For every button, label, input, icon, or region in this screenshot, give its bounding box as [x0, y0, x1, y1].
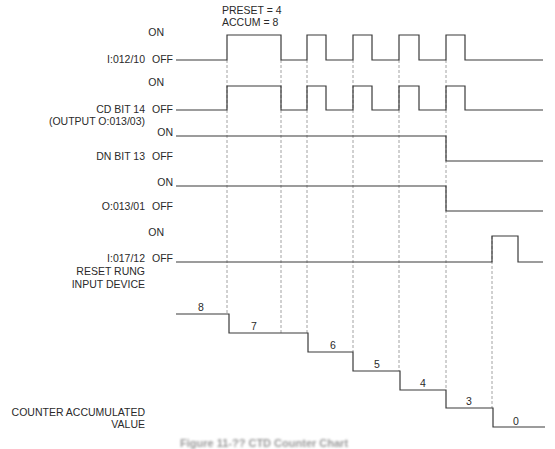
counter-value-8: 8	[198, 301, 204, 313]
counter-value-7: 7	[251, 320, 257, 332]
on-label: ON	[139, 126, 173, 138]
preset-annotation: PRESET = 4	[222, 4, 282, 16]
off-label: OFF	[139, 200, 173, 212]
dashed-guides	[227, 60, 492, 408]
counter-staircase	[176, 314, 545, 427]
off-label: OFF	[139, 252, 173, 264]
counter-value-5: 5	[374, 358, 380, 370]
figure-caption: Figure 11-?? CTD Counter Chart	[180, 437, 348, 449]
waveform-i012-10	[176, 35, 543, 60]
signal-label-dn-bit-13: DN BIT 13	[96, 150, 145, 162]
counter-sublabel: VALUE	[111, 418, 145, 430]
counter-label: COUNTER ACCUMULATED	[12, 406, 145, 418]
on-label: ON	[130, 226, 164, 238]
waveform-cd-bit-14	[176, 86, 543, 110]
waveform-o013-01	[176, 186, 543, 211]
signal-label-cd-bit-14: CD BIT 14	[96, 103, 145, 115]
signal-sublabel-reset-rung: RESET RUNG	[76, 265, 145, 277]
waveform-dn-bit-13	[176, 136, 543, 161]
signal-sublabel-input-device: INPUT DEVICE	[72, 278, 145, 290]
off-label: OFF	[139, 103, 173, 115]
signal-sublabel-output: (OUTPUT O:013/03)	[49, 115, 145, 127]
waveform-i017-12-reset	[176, 236, 543, 262]
on-label: ON	[130, 26, 164, 38]
on-label: ON	[139, 176, 173, 188]
on-label: ON	[130, 76, 164, 88]
counter-value-3: 3	[466, 395, 472, 407]
accum-annotation: ACCUM = 8	[222, 16, 278, 28]
counter-value-6: 6	[330, 339, 336, 351]
off-label: OFF	[139, 53, 173, 65]
counter-value-4: 4	[420, 377, 426, 389]
off-label: OFF	[139, 150, 173, 162]
counter-value-0: 0	[513, 415, 519, 427]
